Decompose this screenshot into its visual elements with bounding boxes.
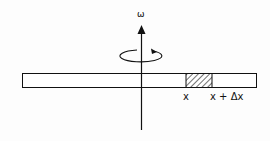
rotating-rod-diagram	[0, 0, 270, 141]
omega-label: ω	[137, 10, 145, 19]
hatched-element	[186, 74, 212, 88]
axis-arrowhead-icon	[138, 25, 146, 34]
segment-end-label: x + Δx	[210, 92, 243, 102]
diagram-canvas: ω x x + Δx	[0, 0, 270, 141]
rod	[23, 74, 257, 88]
segment-start-label: x	[183, 92, 189, 102]
